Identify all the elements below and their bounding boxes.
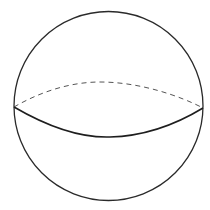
sphere-diagram	[0, 0, 210, 210]
background	[0, 0, 210, 210]
